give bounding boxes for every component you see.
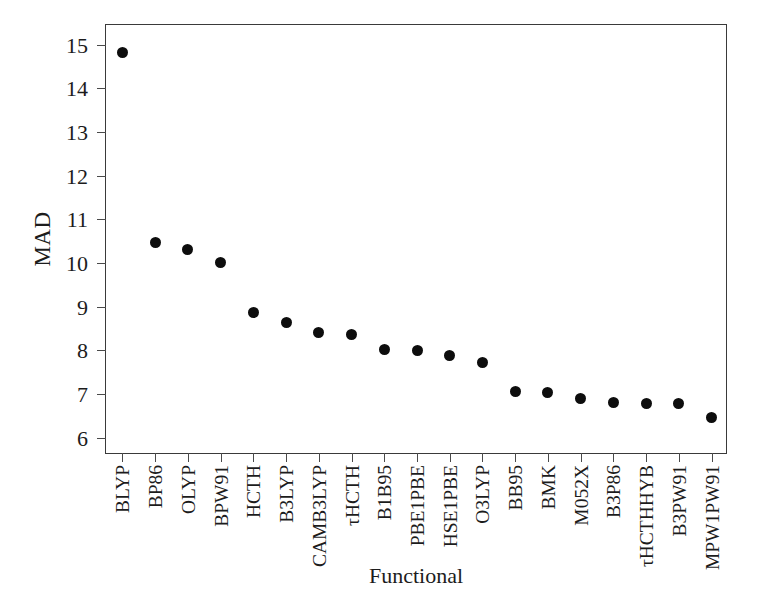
x-axis-tick: MPW1PW91 [712, 453, 713, 462]
y-axis-tick: 9 [97, 307, 106, 308]
x-axis-tick: BP86 [155, 453, 156, 462]
y-axis-tick: 7 [97, 394, 106, 395]
x-axis-tick-label: O3LYP [474, 465, 494, 524]
y-axis-tick: 11 [97, 219, 106, 220]
x-axis-title: Functional [105, 563, 727, 589]
x-axis-tick: M052X [581, 453, 582, 462]
y-axis-title: MAD [26, 24, 60, 454]
x-axis-tick-label: B3PW91 [670, 465, 690, 537]
data-point [182, 244, 193, 255]
data-point [117, 47, 128, 58]
x-axis-tick: BMK [548, 453, 549, 462]
data-point [215, 257, 226, 268]
y-axis-tick: 14 [97, 88, 106, 89]
x-axis-tick-label: B3P86 [605, 465, 625, 518]
x-axis-tick: τHCTH [352, 453, 353, 462]
data-point [575, 393, 586, 404]
x-axis-tick: B3LYP [286, 453, 287, 462]
x-axis-tick-label: CAMB3LYP [310, 465, 330, 567]
data-point [346, 329, 357, 340]
x-axis-tick-label: HSE1PBE [441, 465, 461, 547]
y-axis-tick-label: 10 [66, 253, 97, 275]
x-axis-tick: HCTH [253, 453, 254, 462]
y-axis-tick-label: 11 [67, 209, 97, 231]
y-axis-tick-label: 13 [66, 122, 97, 144]
x-axis-tick-label: τHCTH [343, 465, 363, 526]
data-point [281, 317, 292, 328]
y-axis-tick: 12 [97, 176, 106, 177]
data-point [510, 386, 521, 397]
y-axis-tick: 8 [97, 350, 106, 351]
x-axis-tick: B3PW91 [679, 453, 680, 462]
x-axis-tick-label: BB95 [506, 465, 526, 511]
x-axis-tick: HSE1PBE [450, 453, 451, 462]
data-point [608, 397, 619, 408]
x-axis-tick-label: BMK [539, 465, 559, 509]
x-axis-tick-label: B1B95 [376, 465, 396, 520]
data-point [412, 345, 423, 356]
x-axis-tick: O3LYP [482, 453, 483, 462]
x-axis-tick: τHCTHHYB [646, 453, 647, 462]
x-axis-tick-label: OLYP [179, 465, 199, 514]
x-axis-tick-label: BLYP [114, 465, 134, 513]
data-point [542, 387, 553, 398]
x-axis-tick: B3P86 [613, 453, 614, 462]
y-axis-tick: 15 [97, 45, 106, 46]
data-point [477, 357, 488, 368]
x-axis-tick-label: τHCTHHYB [637, 465, 657, 567]
data-point [248, 307, 259, 318]
x-axis-tick-label: B3LYP [277, 465, 297, 523]
y-axis-tick-label: 8 [77, 340, 97, 362]
y-axis-tick: 10 [97, 263, 106, 264]
x-axis-tick: CAMB3LYP [319, 453, 320, 462]
y-axis-title-label: MAD [30, 211, 56, 266]
data-point [641, 398, 652, 409]
y-axis-tick: 6 [97, 438, 106, 439]
data-point [706, 412, 717, 423]
y-axis-tick-label: 12 [66, 166, 97, 188]
chart-figure: MAD 1514131211109876 BLYPBP86OLYPBPW91HC… [0, 0, 763, 615]
x-axis-tick: BPW91 [221, 453, 222, 462]
x-axis-tick: BLYP [122, 453, 123, 462]
y-axis-tick: 13 [97, 132, 106, 133]
x-axis-tick-label: PBE1PBE [408, 465, 428, 546]
x-axis-tick-label: MPW1PW91 [703, 465, 723, 570]
x-axis-tick: BB95 [515, 453, 516, 462]
y-axis-tick-label: 7 [77, 384, 97, 406]
x-axis-tick-label: HCTH [245, 465, 265, 518]
y-axis-tick-label: 6 [77, 428, 97, 450]
y-axis-tick-label: 9 [77, 297, 97, 319]
data-series [106, 25, 726, 453]
x-axis-tick: B1B95 [384, 453, 385, 462]
data-point [673, 398, 684, 409]
x-axis-tick-label: BPW91 [212, 465, 232, 527]
data-point [150, 237, 161, 248]
x-axis-tick-label: BP86 [146, 465, 166, 508]
y-axis-tick-label: 14 [66, 78, 97, 100]
data-point [444, 350, 455, 361]
data-point [379, 344, 390, 355]
x-axis-tick: PBE1PBE [417, 453, 418, 462]
x-axis-tick: OLYP [188, 453, 189, 462]
y-axis-tick-label: 15 [66, 35, 97, 57]
plot-area: 1514131211109876 BLYPBP86OLYPBPW91HCTHB3… [105, 24, 727, 454]
x-axis-tick-label: M052X [572, 465, 592, 526]
data-point [313, 327, 324, 338]
